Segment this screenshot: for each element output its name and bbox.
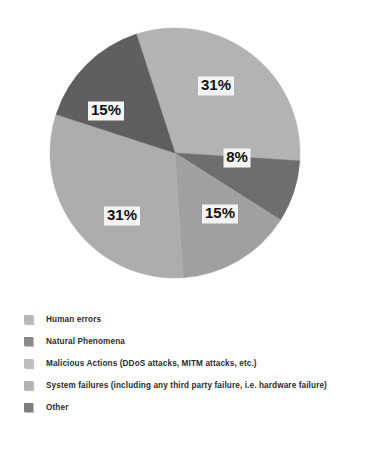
pie-slice-value-label: 31% bbox=[107, 206, 137, 223]
pie-chart-figure: 31%8%15%31%15% Human errorsNatural Pheno… bbox=[0, 0, 381, 450]
chart-legend: Human errorsNatural PhenomenaMalicious A… bbox=[24, 308, 374, 418]
pie-slice-value-label: 8% bbox=[226, 148, 248, 165]
pie-chart-area: 31%8%15%31%15% bbox=[0, 0, 381, 300]
legend-item-label: Human errors bbox=[46, 315, 101, 324]
legend-item[interactable]: Other bbox=[24, 396, 374, 418]
legend-item-label: Natural Phenomena bbox=[46, 337, 125, 346]
legend-item-label: System failures (including any third par… bbox=[46, 381, 327, 390]
pie-chart-svg: 31%8%15%31%15% bbox=[0, 0, 381, 300]
pie-slice-group bbox=[50, 28, 300, 278]
legend-color-swatch-icon bbox=[24, 381, 33, 390]
legend-color-swatch-icon bbox=[24, 315, 33, 324]
legend-color-swatch-icon bbox=[24, 359, 33, 368]
legend-item[interactable]: Malicious Actions (DDoS attacks, MITM at… bbox=[24, 352, 374, 374]
legend-item-label: Malicious Actions (DDoS attacks, MITM at… bbox=[46, 359, 257, 368]
legend-item[interactable]: System failures (including any third par… bbox=[24, 374, 374, 396]
pie-slice-value-label: 15% bbox=[91, 101, 121, 118]
legend-color-swatch-icon bbox=[24, 403, 33, 412]
legend-color-swatch-icon bbox=[24, 337, 33, 346]
legend-item[interactable]: Human errors bbox=[24, 308, 374, 330]
legend-item[interactable]: Natural Phenomena bbox=[24, 330, 374, 352]
pie-slice-value-label: 15% bbox=[205, 204, 235, 221]
pie-slice-value-label: 31% bbox=[201, 76, 231, 93]
legend-item-label: Other bbox=[46, 403, 68, 412]
